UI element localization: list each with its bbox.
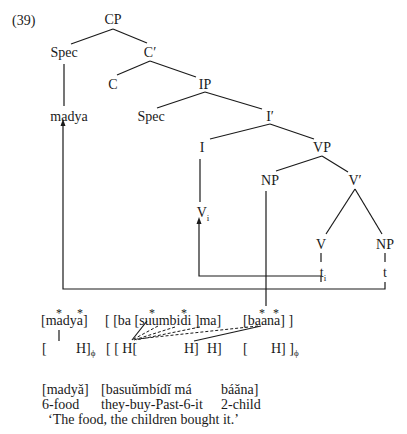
node-np-object: NP [376,238,394,252]
tone-phi1-h: H]ϕ [76,342,96,360]
tone-phi1-open: [ [42,342,47,356]
node-trace: t [383,266,387,280]
node-spec-ip: Spec [137,110,164,124]
node-np-subject: NP [261,174,279,188]
node-i-bar: I′ [266,110,274,124]
gloss-surface-2: [basuǔmbídǐ má [101,383,192,397]
node-cp: CP [104,13,121,27]
node-v-i: Vi [197,206,210,225]
node-c-bar: C′ [144,46,156,60]
node-v: V [316,238,326,252]
node-madya: madya [50,110,87,124]
tone-h3: H] [207,342,222,356]
node-i: I [200,141,205,155]
node-spec-cp: Spec [50,46,77,60]
gloss-morph-1: 6-food [42,398,79,412]
gloss-morph-3: 2-child [221,398,261,412]
segment-madya: [madya] [41,314,88,328]
node-vp: VP [313,141,331,155]
gloss-surface-1: [madyǎ] [42,383,89,397]
tone-h2: H] [184,342,199,356]
node-v-bar: V′ [348,174,361,188]
gloss-morph-2: they-buy-Past-6-it [101,398,203,412]
gloss-surface-3: báǎna] [221,383,258,397]
tone-phi2-h: H] ]ϕ [271,342,299,360]
segment-baana: [baana] ] [243,314,293,328]
node-trace-i: ti [320,266,326,285]
tone-verb: [ [ H[ [106,342,137,356]
node-c: C [108,78,117,92]
node-ip: IP [199,78,211,92]
tone-phi2-open: [ [243,342,248,356]
segment-verb: [ [ba [suumbidi ]ma] [105,314,221,328]
gloss-translation: ‘The food, the children bought it.’ [48,413,239,427]
